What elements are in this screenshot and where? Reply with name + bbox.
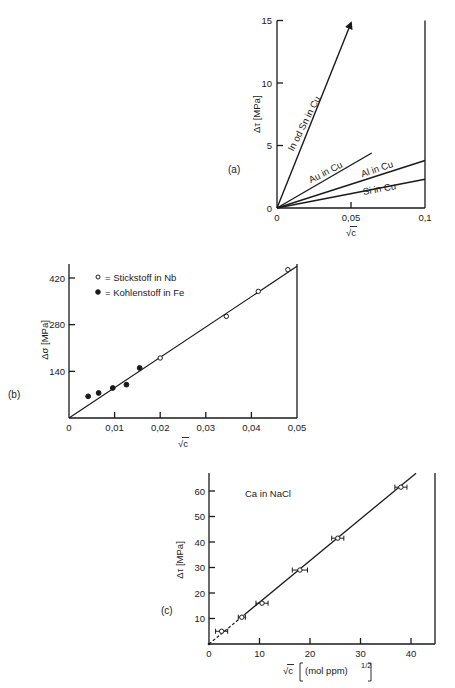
x-tick-label: 20 <box>305 648 316 659</box>
y-tick-label: 40 <box>194 537 205 548</box>
panel-label-c: (c) <box>161 605 173 616</box>
x-tick-label: 0,1 <box>418 212 431 223</box>
series-label: Si in Cu <box>362 180 397 197</box>
y-axis-label: Δτ [MPa] <box>174 541 185 579</box>
data-point-filled <box>96 391 101 396</box>
legend-label: = Stickstoff in Nb <box>105 272 176 283</box>
y-tick-label: 140 <box>49 366 65 377</box>
y-tick-label: 5 <box>267 140 272 151</box>
legend-open-circle-icon <box>96 275 100 279</box>
legend-filled-circle-icon <box>96 290 101 295</box>
data-point-open <box>219 629 223 633</box>
y-tick-label: 15 <box>261 15 272 26</box>
y-tick-label: 50 <box>194 511 205 522</box>
x-tick-label: 0,05 <box>288 422 307 433</box>
x-axis-label: √c <box>178 438 188 449</box>
y-tick-label: 0 <box>267 203 272 214</box>
data-point-open <box>158 356 162 360</box>
figure-canvas: 05101500,050,1√cΔτ [MPa](a)In od Sn in C… <box>0 0 455 688</box>
data-point-open <box>240 615 244 619</box>
x-tick-label: 0 <box>66 422 71 433</box>
x-axis-label: √c <box>346 227 356 238</box>
x-axis-unit: (mol ppm) <box>305 665 348 676</box>
data-point-open <box>224 314 228 318</box>
y-tick-label: 10 <box>261 78 272 89</box>
panel-label-a: (a) <box>228 164 240 175</box>
panel-label-b: (b) <box>8 389 20 400</box>
x-tick-label: 0,01 <box>105 422 124 433</box>
fit-line-dashed <box>209 615 244 644</box>
data-point-open <box>298 568 302 572</box>
x-tick-label: 0,02 <box>151 422 170 433</box>
left-bracket <box>300 663 303 681</box>
data-point-filled <box>137 366 142 371</box>
x-tick-label: 30 <box>355 648 366 659</box>
x-axis-unit-exponent: 1/2 <box>361 661 371 670</box>
legend-label: = Kohlenstoff in Fe <box>105 287 184 298</box>
data-point-filled <box>124 382 129 387</box>
x-axis-label: √c <box>283 665 293 676</box>
y-tick-label: 10 <box>194 613 205 624</box>
series-line <box>277 153 372 208</box>
y-axis-label: Δτ [MPa] <box>251 95 262 133</box>
series-label: In od Sn in Cu <box>285 94 322 153</box>
data-point-filled <box>86 394 91 399</box>
x-tick-label: 0,05 <box>342 212 361 223</box>
y-tick-label: 30 <box>194 562 205 573</box>
y-tick-label: 20 <box>194 588 205 599</box>
y-axis-label: Δσ [MPa] <box>39 320 50 360</box>
x-tick-label: 0 <box>274 212 279 223</box>
data-point-open <box>399 485 403 489</box>
y-tick-label: 60 <box>194 486 205 497</box>
x-tick-label: 10 <box>254 648 265 659</box>
data-point-filled <box>110 386 115 391</box>
chart-title: Ca in NaCl <box>245 488 291 499</box>
x-tick-label: 0,03 <box>197 422 216 433</box>
x-tick-label: 0,04 <box>242 422 261 433</box>
data-point-open <box>336 536 340 540</box>
x-tick-label: 40 <box>406 648 417 659</box>
x-tick-label: 0 <box>206 648 211 659</box>
panel-b-chart: 14028042000,010,020,030,040,05√cΔσ [MPa]… <box>8 264 306 449</box>
panel-c-chart: 102030405060010203040√c(mol ppm)1/2Δτ [M… <box>161 473 435 681</box>
data-point-open <box>260 601 264 605</box>
data-point-open <box>286 267 290 271</box>
origin-dot <box>208 643 211 646</box>
panel-a-chart: 05101500,050,1√cΔτ [MPa](a)In od Sn in C… <box>228 15 432 238</box>
data-point-open <box>256 289 260 293</box>
y-tick-label: 280 <box>49 319 65 330</box>
y-tick-label: 420 <box>49 273 65 284</box>
